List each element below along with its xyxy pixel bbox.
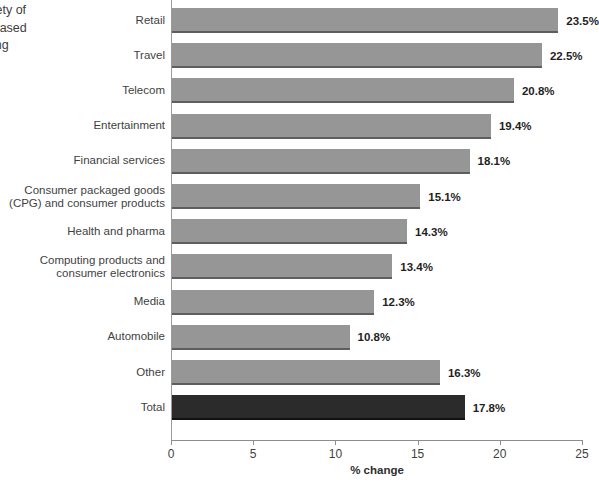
bar [172, 395, 465, 420]
x-axis-tick [500, 440, 501, 445]
bar-row: Retail23.5% [0, 8, 599, 33]
bar-category-label: Other [0, 366, 165, 380]
bar-value-label: 13.4% [400, 261, 433, 273]
bar [172, 360, 440, 385]
x-axis-tick-label: 10 [329, 447, 342, 461]
x-axis-tick-label: 25 [575, 447, 588, 461]
bar-value-label: 15.1% [428, 191, 461, 203]
bar [172, 114, 491, 139]
bar-category-label: Automobile [0, 331, 165, 345]
x-axis-tick-label: 15 [411, 447, 424, 461]
bar [172, 325, 350, 350]
bar-row: Entertainment19.4% [0, 114, 599, 139]
bar-value-label: 19.4% [499, 120, 532, 132]
bar-value-label: 22.5% [550, 50, 583, 62]
bar-row: Total17.8% [0, 395, 599, 420]
bar [172, 8, 558, 33]
bar-value-label: 23.5% [566, 15, 599, 27]
bar [172, 43, 542, 68]
bar-category-label: Retail [0, 14, 165, 28]
bar-category-label: Travel [0, 49, 165, 63]
x-axis-tick [253, 440, 254, 445]
bar-value-label: 17.8% [473, 402, 506, 414]
x-axis-tick-label: 5 [250, 447, 257, 461]
bar-row: Automobile10.8% [0, 325, 599, 350]
bar-category-label: Computing products and consumer electron… [0, 253, 165, 280]
bar [172, 78, 514, 103]
bar-row: Health and pharma14.3% [0, 219, 599, 244]
bar-value-label: 12.3% [382, 296, 415, 308]
bar-value-label: 10.8% [358, 331, 391, 343]
bar-category-label: Financial services [0, 155, 165, 169]
bar [172, 290, 374, 315]
bar-value-label: 16.3% [448, 367, 481, 379]
bar [172, 219, 407, 244]
bar [172, 149, 470, 174]
x-axis-tick [418, 440, 419, 445]
bar-category-label: Total [0, 401, 165, 415]
bar-row: Other16.3% [0, 360, 599, 385]
x-axis-tick [171, 440, 172, 445]
bar-row: Travel22.5% [0, 43, 599, 68]
bar-value-label: 18.1% [478, 155, 511, 167]
horizontal-bar-chart: Retail23.5%Travel22.5%Telecom20.8%Entert… [0, 0, 599, 486]
x-axis-tick [582, 440, 583, 445]
bar-row: Financial services18.1% [0, 149, 599, 174]
x-axis-tick-label: 0 [168, 447, 175, 461]
bar [172, 254, 392, 279]
bar-category-label: Telecom [0, 84, 165, 98]
bar-category-label: Health and pharma [0, 225, 165, 239]
x-axis-line [171, 440, 583, 441]
bar-category-label: Entertainment [0, 119, 165, 133]
bar-category-label: Media [0, 295, 165, 309]
bar [172, 184, 420, 209]
bar-row: Consumer packaged goods (CPG) and consum… [0, 184, 599, 209]
bar-value-label: 14.3% [415, 226, 448, 238]
bar-row: Telecom20.8% [0, 78, 599, 103]
x-axis-tick [335, 440, 336, 445]
bar-value-label: 20.8% [522, 85, 555, 97]
bar-row: Computing products and consumer electron… [0, 254, 599, 279]
x-axis-label: % change [171, 464, 583, 476]
bar-category-label: Consumer packaged goods (CPG) and consum… [0, 183, 165, 210]
x-axis-tick-label: 20 [493, 447, 506, 461]
bar-row: Media12.3% [0, 290, 599, 315]
